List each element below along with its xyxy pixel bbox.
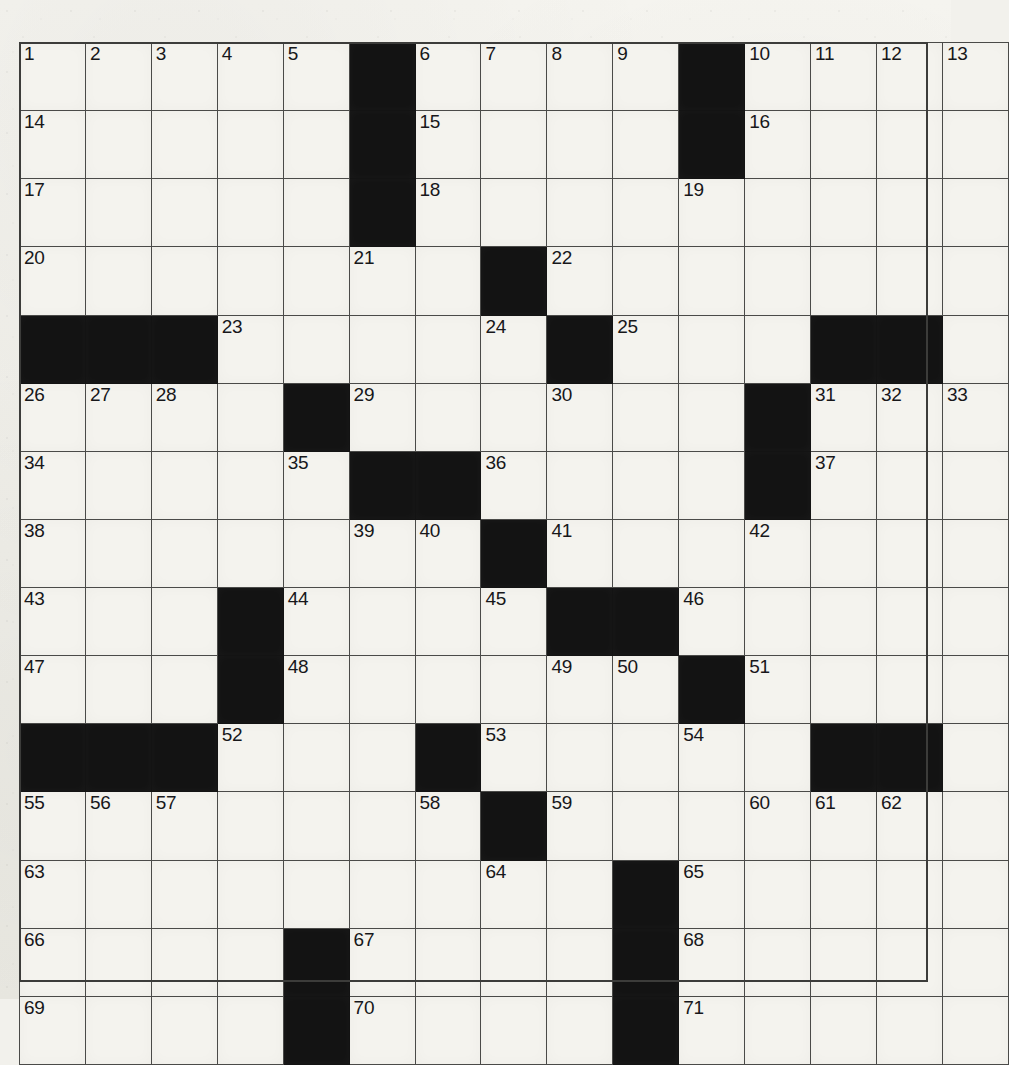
crossword-cell[interactable] [613,519,679,587]
crossword-cell[interactable] [415,928,481,996]
crossword-cell[interactable]: 29 [349,383,415,451]
crossword-cell[interactable] [547,111,613,179]
crossword-cell[interactable] [942,111,1008,179]
crossword-cell[interactable] [151,588,217,656]
crossword-cell[interactable]: 38 [20,519,86,587]
crossword-cell[interactable] [942,792,1008,860]
crossword-cell[interactable] [613,451,679,519]
crossword-cell[interactable] [876,588,942,656]
crossword-cell[interactable]: 7 [481,43,547,111]
crossword-cell[interactable] [85,451,151,519]
crossword-cell[interactable] [481,656,547,724]
crossword-cell[interactable] [283,179,349,247]
crossword-cell[interactable] [151,451,217,519]
crossword-cell[interactable] [217,928,283,996]
crossword-cell[interactable] [481,111,547,179]
crossword-cell[interactable] [547,996,613,1064]
crossword-cell[interactable]: 5 [283,43,349,111]
crossword-cell[interactable] [876,179,942,247]
crossword-cell[interactable] [745,724,811,792]
crossword-cell[interactable] [613,247,679,315]
crossword-cell[interactable] [811,111,877,179]
crossword-cell[interactable]: 63 [20,860,86,928]
crossword-cell[interactable]: 36 [481,451,547,519]
crossword-cell[interactable] [415,996,481,1064]
crossword-cell[interactable]: 34 [20,451,86,519]
crossword-cell[interactable] [85,928,151,996]
crossword-cell[interactable]: 2 [85,43,151,111]
crossword-cell[interactable] [613,383,679,451]
crossword-cell[interactable] [679,247,745,315]
crossword-cell[interactable]: 24 [481,315,547,383]
crossword-cell[interactable]: 15 [415,111,481,179]
crossword-cell[interactable] [217,519,283,587]
crossword-cell[interactable] [745,588,811,656]
crossword-cell[interactable] [217,996,283,1064]
crossword-cell[interactable] [942,928,1008,996]
crossword-cell[interactable] [679,519,745,587]
crossword-cell[interactable] [217,111,283,179]
crossword-cell[interactable] [283,111,349,179]
crossword-cell[interactable] [217,179,283,247]
crossword-cell[interactable]: 30 [547,383,613,451]
crossword-cell[interactable]: 3 [151,43,217,111]
crossword-cell[interactable]: 11 [811,43,877,111]
crossword-cell[interactable]: 33 [942,383,1008,451]
crossword-cell[interactable]: 66 [20,928,86,996]
crossword-cell[interactable] [942,656,1008,724]
crossword-cell[interactable] [942,247,1008,315]
crossword-cell[interactable] [151,860,217,928]
crossword-cell[interactable] [547,928,613,996]
crossword-cell[interactable]: 44 [283,588,349,656]
crossword-cell[interactable]: 46 [679,588,745,656]
crossword-cell[interactable]: 49 [547,656,613,724]
crossword-cell[interactable] [415,383,481,451]
crossword-cell[interactable] [942,315,1008,383]
crossword-cell[interactable] [613,179,679,247]
crossword-cell[interactable]: 6 [415,43,481,111]
crossword-cell[interactable]: 41 [547,519,613,587]
crossword-cell[interactable]: 20 [20,247,86,315]
crossword-cell[interactable] [415,588,481,656]
crossword-cell[interactable] [349,656,415,724]
crossword-cell[interactable] [811,928,877,996]
crossword-cell[interactable]: 16 [745,111,811,179]
crossword-cell[interactable] [481,996,547,1064]
crossword-cell[interactable] [415,656,481,724]
crossword-cell[interactable] [283,860,349,928]
crossword-cell[interactable] [942,519,1008,587]
crossword-cell[interactable] [613,792,679,860]
crossword-cell[interactable] [217,451,283,519]
crossword-cell[interactable]: 65 [679,860,745,928]
crossword-cell[interactable]: 40 [415,519,481,587]
crossword-cell[interactable] [811,247,877,315]
crossword-cell[interactable]: 47 [20,656,86,724]
crossword-cell[interactable] [151,247,217,315]
crossword-cell[interactable] [876,111,942,179]
crossword-cell[interactable]: 68 [679,928,745,996]
crossword-cell[interactable] [679,451,745,519]
crossword-cell[interactable]: 21 [349,247,415,315]
crossword-cell[interactable]: 18 [415,179,481,247]
crossword-cell[interactable]: 12 [876,43,942,111]
crossword-cell[interactable] [481,383,547,451]
crossword-cell[interactable] [349,724,415,792]
crossword-cell[interactable] [679,383,745,451]
crossword-cell[interactable]: 57 [151,792,217,860]
crossword-cell[interactable]: 23 [217,315,283,383]
crossword-cell[interactable] [876,451,942,519]
crossword-cell[interactable] [547,860,613,928]
crossword-cell[interactable] [85,996,151,1064]
crossword-cell[interactable]: 56 [85,792,151,860]
crossword-cell[interactable] [876,656,942,724]
crossword-cell[interactable]: 37 [811,451,877,519]
crossword-cell[interactable] [745,179,811,247]
crossword-cell[interactable] [85,247,151,315]
crossword-cell[interactable] [811,656,877,724]
crossword-cell[interactable] [415,247,481,315]
crossword-cell[interactable] [217,383,283,451]
crossword-cell[interactable] [283,519,349,587]
crossword-cell[interactable] [217,792,283,860]
crossword-cell[interactable] [547,451,613,519]
crossword-cell[interactable] [415,315,481,383]
